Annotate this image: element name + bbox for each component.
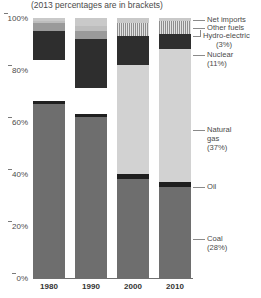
y-tick-60: 60% [12,118,33,127]
segment-net-imports [75,18,107,26]
segment-hydro [33,23,65,31]
y-tick-mark [8,65,12,66]
y-tick-0: 0% [16,274,33,283]
segment-natural-gas [117,65,149,174]
legend-coal-pct: (28%) [207,243,227,252]
legend-natural-gas-line2: gas [207,134,219,143]
y-tick-mark [12,273,16,274]
leader-net-imports [193,20,205,21]
legend-natural-gas-pct: (37%) [207,143,227,152]
y-tick-40: 40% [12,170,33,179]
legend-nuclear-pct: (11%) [207,59,227,68]
segment-natural-gas [159,49,191,182]
segment-nuclear [117,36,149,65]
bar-1990 [75,18,107,278]
x-label-1980: 1980 [33,282,65,291]
segment-coal [33,104,65,278]
leader-coal [193,239,205,240]
segment-coal [159,187,191,278]
leader-other-fuels [193,28,205,29]
segment-nuclear [75,39,107,88]
leader-nuclear [193,55,205,56]
x-axis-line [33,278,193,279]
y-tick-80: 80% [12,66,33,75]
y-tick-mark [4,13,8,14]
segment-coal [117,179,149,278]
segment-hydro [159,26,191,34]
bar-2000 [117,18,149,278]
segment-hydro [75,31,107,39]
leader-natural-gas [193,130,205,131]
bar-2010 [159,18,191,278]
y-tick-mark [8,117,12,118]
x-label-1990: 1990 [75,282,107,291]
stacked-bar-chart: (2013 percentages are in brackets) 0% 20… [0,0,261,298]
legend-oil: Oil [207,182,216,191]
leader-hydro-vertical [200,30,201,37]
x-label-2000: 2000 [117,282,149,291]
y-tick-100: 100% [8,14,33,23]
legend-natural-gas-line1: Natural [207,125,231,134]
bar-1980 [33,18,65,278]
leader-oil [193,187,205,188]
x-label-2010: 2010 [159,282,191,291]
legend-coal: Coal [207,234,223,243]
segment-nuclear [33,31,65,60]
segment-natural-gas [75,88,107,114]
chart-title: (2013 percentages are in brackets) [31,0,211,11]
y-tick-mark [8,169,12,170]
legend-hydro-pct: (3%) [216,40,232,49]
segment-coal [75,117,107,278]
segment-hydro [117,28,149,36]
segment-nuclear [159,34,191,50]
plot-area: 0% 20% 40% 60% 80% 100% [33,18,193,278]
y-tick-20: 20% [12,222,33,231]
legend-nuclear: Nuclear [207,50,233,59]
legend-hydro: Hydro-electric [203,31,250,40]
y-tick-mark [8,221,12,222]
segment-natural-gas [33,60,65,102]
